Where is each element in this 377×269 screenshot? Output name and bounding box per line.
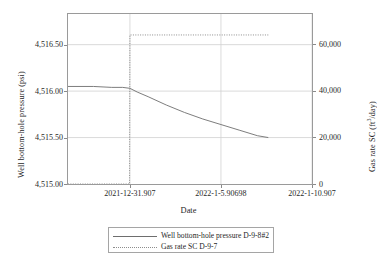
y-axis-right-title-prefix: Gas rate SC (ft — [368, 122, 377, 172]
x-axis-tick-label: 2022-1-10.907 — [257, 189, 367, 198]
x-axis-tick-mark — [312, 185, 313, 188]
plot-canvas — [68, 14, 312, 184]
y-axis-right-title-suffix: /day) — [368, 101, 377, 118]
y-axis-right-tick-label: 20,000 — [319, 133, 341, 142]
y-axis-right-tick-mark — [313, 91, 316, 92]
y-axis-right-tick-label: 40,000 — [319, 86, 341, 95]
y-axis-left-tick-label: 4,516.00 — [19, 87, 63, 96]
y-axis-left-tick-mark — [64, 138, 67, 139]
y-axis-left-tick-label: 4,516.50 — [19, 40, 63, 49]
legend-item-label: Well bottom-hole pressure D-9-8#2 — [161, 231, 269, 240]
chart-figure: Well bottom-hole pressure (psi) Gas rate… — [0, 0, 377, 269]
y-axis-left-tick-label: 4,515.00 — [19, 180, 63, 189]
y-axis-right-tick-mark — [313, 44, 316, 45]
chart-legend: Well bottom-hole pressure D-9-8#2 Gas ra… — [108, 227, 274, 253]
plot-area — [67, 13, 313, 185]
legend-item-label: Gas rate SC D-9-7 — [161, 242, 217, 251]
y-axis-left-tick-mark — [64, 184, 67, 185]
y-axis-left-tick-label: 4,515.50 — [19, 133, 63, 142]
x-axis-title: Date — [0, 206, 377, 215]
y-axis-right-title-superscript: 3 — [366, 119, 372, 122]
legend-item: Gas rate SC D-9-7 — [113, 241, 269, 252]
y-axis-right-tick-mark — [313, 184, 316, 185]
y-axis-right-tick-mark — [313, 137, 316, 138]
y-axis-right-tick-label: 60,000 — [319, 40, 341, 49]
legend-item: Well bottom-hole pressure D-9-8#2 — [113, 230, 269, 241]
legend-line-swatch-dotted — [113, 243, 157, 251]
legend-line-swatch-solid — [113, 232, 157, 240]
y-axis-left-tick-mark — [64, 45, 67, 46]
y-axis-right-tick-label: 0 — [319, 180, 323, 189]
y-axis-right-title: Gas rate SC (ft3/day) — [368, 101, 377, 172]
x-axis-tick-mark — [130, 185, 131, 188]
y-axis-left-tick-mark — [64, 91, 67, 92]
x-axis-tick-mark — [221, 185, 222, 188]
